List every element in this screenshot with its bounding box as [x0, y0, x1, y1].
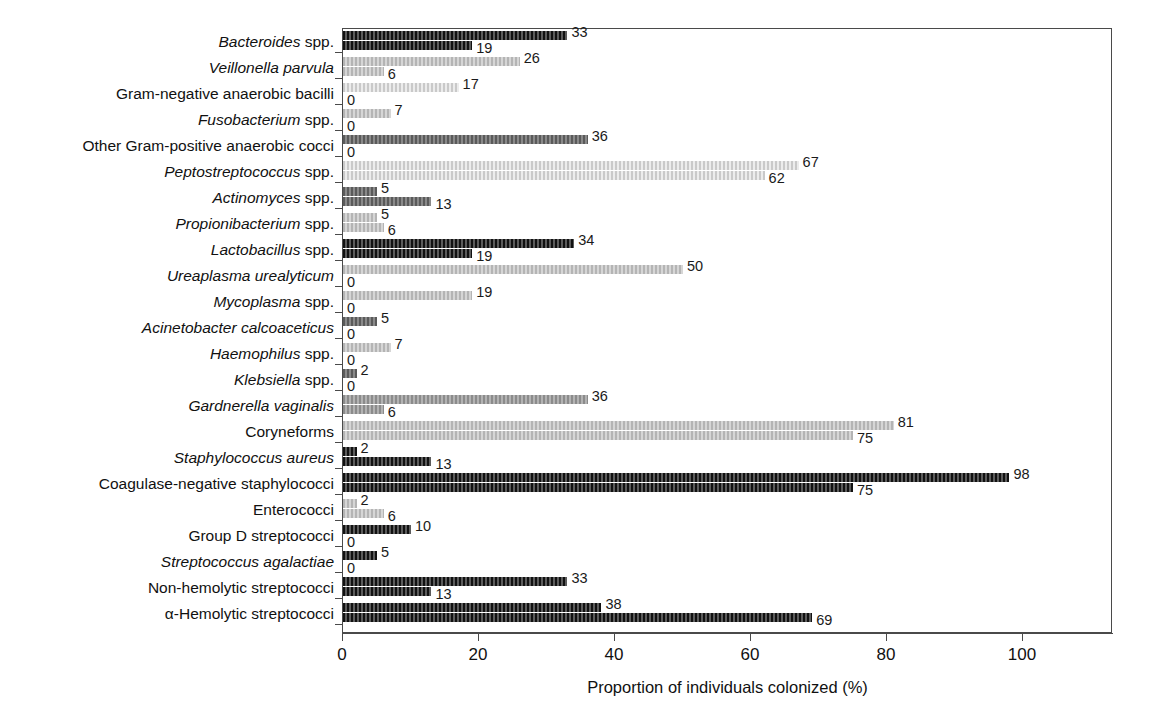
bar-value-label: 7 — [395, 337, 403, 352]
bar-value-label: 33 — [571, 571, 587, 586]
category-axis-tick — [335, 546, 343, 547]
bar-value-label: 6 — [388, 223, 396, 238]
bar-value-label: 69 — [816, 613, 832, 628]
category-axis-tick — [335, 364, 343, 365]
bar-value-label: 13 — [435, 197, 451, 212]
category-label-species: Staphylococcus aureus — [174, 449, 334, 466]
bar — [343, 249, 472, 258]
category-label-species: Actinomyces — [213, 189, 301, 206]
category-axis-tick — [335, 494, 343, 495]
category-label-suffix: Coagulase-negative staphylococci — [99, 475, 334, 492]
category-label: α-Hemolytic streptococci — [0, 605, 334, 622]
bar — [343, 613, 812, 622]
category-label: Group D streptococci — [0, 527, 334, 544]
bar — [343, 213, 377, 222]
category-axis-tick — [335, 130, 343, 131]
bar-value-label: 13 — [435, 457, 451, 472]
bar — [343, 317, 377, 326]
bar — [343, 83, 459, 92]
bar-value-label: 19 — [476, 41, 492, 56]
x-axis-tick — [478, 633, 479, 641]
x-axis-tick — [342, 633, 343, 641]
category-label-species: Propionibacterium — [175, 215, 300, 232]
bar-value-label: 2 — [361, 493, 369, 508]
category-label-suffix: Coryneforms — [245, 423, 334, 440]
x-axis-tick — [750, 633, 751, 641]
bar — [343, 405, 384, 414]
category-label-suffix: spp. — [300, 163, 334, 180]
bar — [343, 457, 431, 466]
bar — [343, 171, 765, 180]
category-axis-tick — [335, 234, 343, 235]
bar-value-label: 0 — [347, 93, 355, 108]
bar-value-label: 0 — [347, 275, 355, 290]
category-label-suffix: spp. — [300, 33, 334, 50]
category-label: Non-hemolytic streptococci — [0, 579, 334, 596]
category-label: Peptostreptococcus spp. — [0, 163, 334, 180]
bar-value-label: 2 — [361, 441, 369, 456]
category-label-suffix: spp. — [300, 293, 334, 310]
x-axis-tick — [614, 633, 615, 641]
bar — [343, 343, 391, 352]
bar-value-label: 0 — [347, 535, 355, 550]
category-label-species: Gardnerella vaginalis — [188, 397, 334, 414]
bar-value-label: 0 — [347, 301, 355, 316]
bar — [343, 587, 431, 596]
bar-value-label: 26 — [524, 51, 540, 66]
category-label: Coagulase-negative staphylococci — [0, 475, 334, 492]
category-axis-tick — [335, 104, 343, 105]
bar-value-label: 7 — [395, 103, 403, 118]
bar — [343, 577, 567, 586]
bar — [343, 447, 357, 456]
bar — [343, 525, 411, 534]
x-axis-tick-label: 0 — [337, 645, 346, 664]
bar-value-label: 17 — [463, 77, 479, 92]
bar-value-label: 5 — [381, 207, 389, 222]
category-label-suffix: Non-hemolytic streptococci — [148, 579, 334, 596]
category-label-suffix: Enterococci — [253, 501, 334, 518]
category-axis-tick — [335, 572, 343, 573]
category-label-suffix: α-Hemolytic streptococci — [165, 605, 334, 622]
bar-value-label: 5 — [381, 181, 389, 196]
x-axis-tick-label: 20 — [469, 645, 488, 664]
bar-value-label: 0 — [347, 145, 355, 160]
category-label-species: Klebsiella — [234, 371, 300, 388]
category-label-suffix: spp. — [300, 111, 334, 128]
category-label-species: Lactobacillus — [211, 241, 301, 258]
bar-value-label: 38 — [605, 597, 621, 612]
bar — [343, 197, 431, 206]
category-axis-tick — [335, 182, 343, 183]
category-label: Haemophilus spp. — [0, 345, 334, 362]
bar — [343, 369, 357, 378]
bar — [343, 551, 377, 560]
category-label: Propionibacterium spp. — [0, 215, 334, 232]
category-label: Gram-negative anaerobic bacilli — [0, 85, 334, 102]
x-axis-tick — [886, 633, 887, 641]
bar — [343, 483, 853, 492]
bar-value-label: 10 — [415, 519, 431, 534]
category-label: Mycoplasma spp. — [0, 293, 334, 310]
bar-value-label: 19 — [476, 285, 492, 300]
category-label: Klebsiella spp. — [0, 371, 334, 388]
bar-value-label: 6 — [388, 405, 396, 420]
x-axis-tick-label: 80 — [877, 645, 896, 664]
x-axis-tick-label: 40 — [605, 645, 624, 664]
category-label-species: Bacteroides — [219, 33, 301, 50]
bars-layer: 3319266170703606762513563419500190507020… — [343, 29, 1112, 632]
bar-value-label: 6 — [388, 509, 396, 524]
category-axis-tick — [335, 624, 343, 625]
bar-value-label: 75 — [857, 483, 873, 498]
category-label: Coryneforms — [0, 423, 334, 440]
bar — [343, 509, 384, 518]
bar — [343, 161, 799, 170]
bar-value-label: 0 — [347, 327, 355, 342]
category-label: Veillonella parvula — [0, 59, 334, 76]
category-axis-tick — [335, 598, 343, 599]
bar-value-label: 33 — [571, 25, 587, 40]
bar — [343, 223, 384, 232]
bar — [343, 187, 377, 196]
bar-value-label: 0 — [347, 561, 355, 576]
bar-chart-figure: Bacteroides spp.Veillonella parvulaGram-… — [0, 0, 1153, 721]
category-axis-tick — [335, 520, 343, 521]
category-axis-labels: Bacteroides spp.Veillonella parvulaGram-… — [0, 28, 334, 633]
